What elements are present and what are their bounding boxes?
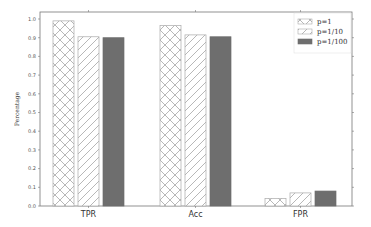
bar-tpr-3 — [103, 38, 124, 206]
x-category-label: FPR — [293, 210, 308, 219]
bar-tpr-2 — [78, 37, 99, 206]
legend-label: p=1/100 — [317, 38, 348, 46]
legend: p=1p=1/10p=1/100 — [294, 13, 351, 53]
grouped-bar-chart: 0.00.10.20.30.40.50.60.70.80.91.0Percent… — [0, 0, 371, 227]
y-tick-label: 1.0 — [28, 16, 36, 22]
y-tick-label: 0.7 — [28, 72, 36, 78]
y-tick-label: 0.0 — [28, 203, 36, 209]
bar-fpr-1 — [265, 199, 286, 206]
y-tick-label: 0.3 — [28, 147, 36, 153]
y-tick-label: 0.2 — [28, 165, 36, 171]
y-tick-label: 0.4 — [28, 128, 36, 134]
plot-area: 0.00.10.20.30.40.50.60.70.80.91.0Percent… — [13, 10, 354, 219]
y-tick-label: 0.1 — [28, 184, 36, 190]
y-tick-label: 0.6 — [28, 91, 36, 97]
bar-acc-2 — [185, 35, 206, 206]
x-category-label: TPR — [80, 210, 97, 219]
legend-label: p=1/10 — [317, 28, 343, 36]
y-tick-label: 0.9 — [28, 35, 36, 41]
bar-tpr-1 — [53, 21, 74, 206]
y-tick-label: 0.8 — [28, 53, 36, 59]
y-axis-label: Percentage — [13, 91, 21, 126]
legend-swatch — [298, 39, 312, 44]
bar-fpr-3 — [315, 191, 336, 206]
y-tick-label: 0.5 — [28, 109, 36, 115]
bar-acc-3 — [210, 37, 231, 206]
legend-swatch — [298, 29, 312, 34]
x-category-label: Acc — [188, 210, 202, 219]
bar-fpr-2 — [290, 193, 311, 206]
bar-acc-1 — [160, 26, 181, 206]
legend-label: p=1 — [317, 18, 332, 26]
legend-swatch — [298, 19, 312, 24]
